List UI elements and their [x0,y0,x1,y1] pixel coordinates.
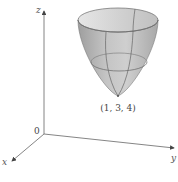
x-axis [12,134,44,161]
origin-label: 0 [34,126,40,136]
vertex-label: (1, 3, 4) [100,103,136,113]
vertex-point [117,95,119,97]
paraboloid-surface [78,8,158,97]
y-axis-label: y [170,153,177,163]
x-axis-label: x [2,157,7,167]
paraboloid-diagram: z 0 y x (1, 3, 4) [0,0,178,182]
z-axis-label: z [35,5,41,15]
y-axis [44,134,174,148]
